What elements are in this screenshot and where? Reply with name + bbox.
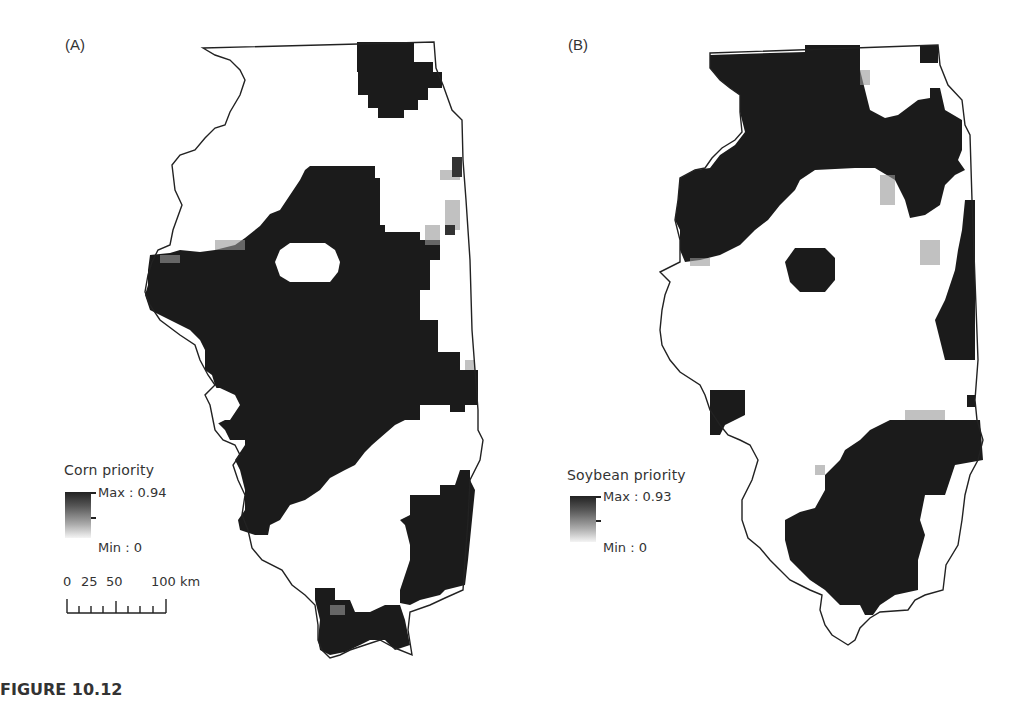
soybean-legend-color-ramp [570, 496, 596, 542]
soybean-legend-title: Soybean priority [567, 467, 686, 483]
soybean-legend-mid-tick [596, 520, 601, 522]
soybean-legend-min-label: Min : 0 [603, 540, 647, 555]
soybean-legend-max-tick [596, 496, 601, 498]
scale-bar [0, 0, 1029, 711]
soybean-legend-max-label: Max : 0.93 [603, 489, 671, 504]
figure-caption: FIGURE 10.12 [0, 680, 122, 699]
